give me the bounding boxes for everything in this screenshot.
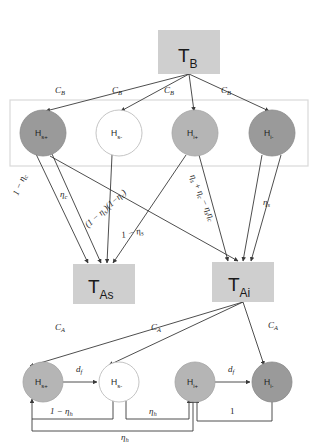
diagram-canvas: TB TAs TAi Hs+ Hs- Hi+ Hi- <box>0 0 318 444</box>
edge-label-eta-c: ηc <box>60 189 67 200</box>
edge-label-CB-3: CB <box>164 85 174 96</box>
h-node-top-Hs-minus[interactable]: Hs- <box>96 110 142 156</box>
t-node-TB[interactable]: TB <box>158 30 220 74</box>
edge-label-CB-4: CB <box>221 85 231 96</box>
edge-label-eta-s: ηs <box>263 197 270 208</box>
edge-label-CB-2: CB <box>112 85 122 96</box>
edge-label-product: (1 − ηs)(1−ηc) <box>83 187 129 230</box>
edge-label-CA-1: CA <box>55 322 65 333</box>
edge-label-CA-2: CA <box>151 322 161 333</box>
t-node-TAi[interactable]: TAi <box>212 262 274 302</box>
h-node-bottom-Hs-plus[interactable]: Hs+ <box>23 362 63 402</box>
edge-label-one-minus-eta-s: 1 − ηs <box>120 225 144 241</box>
h-node-bottom-Hi-plus[interactable]: Hi+ <box>175 362 215 402</box>
edge-label-sum: ηs + ηc − ηsηc <box>187 173 217 223</box>
edge-label-df-2: df <box>228 364 236 375</box>
edge-label-CA-3: CA <box>268 320 278 331</box>
h-node-top-Hs-plus[interactable]: Hs+ <box>20 110 66 156</box>
edges-ta-to-bottom-h <box>30 302 264 366</box>
h-node-bottom-Hs-minus[interactable]: Hs- <box>99 362 139 402</box>
edges-h-to-ta <box>36 154 281 263</box>
edge-label-eta-h-2: ηh <box>121 432 129 443</box>
edge-label-one: 1 <box>230 406 235 416</box>
edge-label-CB-1: CB <box>55 85 65 96</box>
h-node-bottom-Hi-minus[interactable]: Hi- <box>252 362 292 402</box>
h-node-top-Hi-plus[interactable]: Hi+ <box>172 110 218 156</box>
edge-label-one-minus-eta-c: 1 − ηc <box>11 172 30 197</box>
diagram-svg: TB TAs TAi Hs+ Hs- Hi+ Hi- <box>0 0 318 444</box>
t-node-TAs[interactable]: TAs <box>73 264 135 304</box>
edge-label-one-minus-eta-h: 1 − ηh <box>50 406 73 417</box>
edge-label-df-1: df <box>76 364 84 375</box>
edge-label-eta-h-1: ηh <box>149 406 157 417</box>
edges-tb-to-h <box>46 74 269 111</box>
h-node-top-Hi-minus[interactable]: Hi- <box>249 110 295 156</box>
